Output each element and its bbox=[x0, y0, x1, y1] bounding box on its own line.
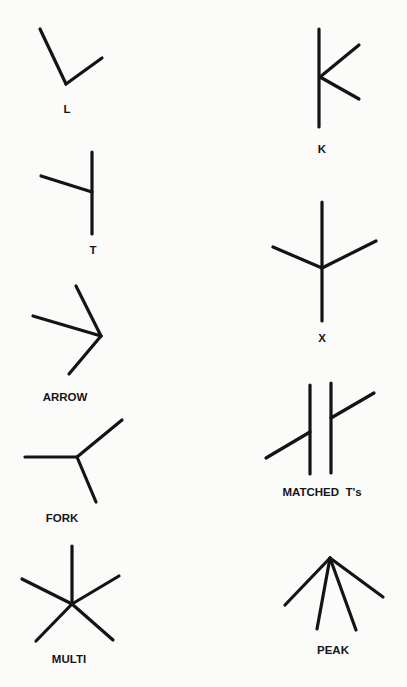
junction-L-label: L bbox=[63, 103, 70, 115]
junction-peak: PEAK bbox=[285, 558, 383, 656]
junction-fork-label: FORK bbox=[46, 512, 79, 524]
junction-matched-ts: MATCHED T's bbox=[266, 383, 374, 498]
junction-multi: MULTI bbox=[22, 546, 119, 665]
junction-fork: FORK bbox=[25, 420, 122, 524]
junction-line bbox=[40, 29, 66, 84]
junction-line bbox=[266, 432, 310, 458]
junction-K: K bbox=[318, 29, 359, 155]
junction-multi-lines bbox=[22, 546, 119, 641]
junction-line bbox=[69, 336, 101, 374]
junction-fork-lines bbox=[25, 420, 122, 502]
junction-line bbox=[22, 579, 72, 604]
junction-arrow-label: ARROW bbox=[43, 391, 88, 403]
junction-diagram: L K T X ARROW MATCHED T's FORK MULTI PEA… bbox=[0, 0, 407, 687]
junction-peak-label: PEAK bbox=[317, 644, 350, 656]
junction-arrow: ARROW bbox=[33, 286, 101, 403]
junction-K-label: K bbox=[318, 143, 327, 155]
junction-line bbox=[320, 45, 359, 77]
junction-K-lines bbox=[319, 29, 359, 127]
junction-peak-lines bbox=[285, 558, 383, 630]
junction-T: T bbox=[41, 152, 97, 256]
junction-line bbox=[77, 420, 122, 457]
junction-arrow-lines bbox=[33, 286, 101, 374]
junction-line bbox=[273, 247, 322, 268]
junction-matched-ts-label: MATCHED T's bbox=[282, 486, 361, 498]
junction-matched-ts-lines bbox=[266, 383, 374, 474]
junction-line bbox=[320, 77, 359, 99]
junction-L-lines bbox=[40, 29, 102, 84]
junction-X-label: X bbox=[318, 332, 326, 344]
junction-line bbox=[72, 604, 113, 640]
junction-multi-label: MULTI bbox=[52, 653, 86, 665]
junction-line bbox=[322, 241, 376, 268]
junction-T-label: T bbox=[89, 244, 96, 256]
junction-line bbox=[77, 457, 96, 502]
junction-line bbox=[331, 393, 374, 418]
junction-line bbox=[72, 576, 119, 604]
junction-line bbox=[36, 604, 72, 641]
junction-line bbox=[41, 176, 92, 192]
junction-X: X bbox=[273, 202, 376, 344]
junction-T-lines bbox=[41, 152, 92, 234]
junction-L: L bbox=[40, 29, 102, 115]
junction-line bbox=[66, 58, 102, 84]
junction-X-lines bbox=[273, 202, 376, 321]
